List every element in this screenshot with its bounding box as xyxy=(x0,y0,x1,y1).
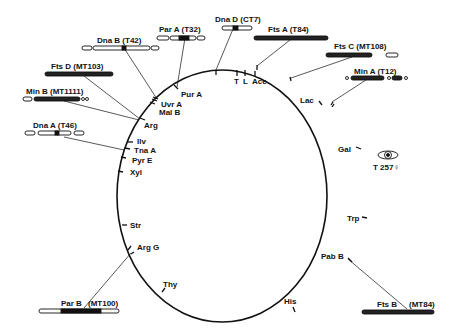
label-dnad: Dna D (CT7) xyxy=(215,15,261,24)
label-ftsb: Fts B xyxy=(377,300,397,309)
marker-str: Str xyxy=(130,221,141,230)
label-para: Par A (T32) xyxy=(159,25,201,34)
marker-gal: Gal xyxy=(338,145,351,154)
label-parb: Par B xyxy=(61,299,82,308)
marker-l: L xyxy=(243,77,248,86)
marker-argg: Arg G xyxy=(137,243,159,252)
marker-uvra: Uvr A xyxy=(161,100,182,109)
cell-icon xyxy=(378,151,398,159)
mutant-labels: Dna D (CT7) Fts A (T84) Fts C (MT108) Mi… xyxy=(26,15,435,309)
label-dnaa: Dna A (T46) xyxy=(33,121,77,130)
marker-tnaa: Tna A xyxy=(134,146,156,155)
marker-pura: Pur A xyxy=(181,90,202,99)
marker-pabb: Pab B xyxy=(321,252,344,261)
chromosome-circle xyxy=(117,70,327,322)
label-ftsd: Fts D (MT103) xyxy=(51,62,104,71)
marker-arg: Arg xyxy=(144,121,158,130)
marker-labels: T L Ace Lac Gal Trp Pab B His Thy Arg G … xyxy=(130,77,360,306)
label-parb-strain: (MT100) xyxy=(88,299,119,308)
label-ftsb-strain: (MT84) xyxy=(409,300,435,309)
marker-trp: Trp xyxy=(347,214,360,223)
marker-t: T xyxy=(234,77,239,86)
marker-malb: Mal B xyxy=(159,108,181,117)
marker-his: His xyxy=(284,297,297,306)
label-ftsa: Fts A (T84) xyxy=(268,25,309,34)
label-cell: T 257♀ xyxy=(373,163,399,172)
marker-pyre: Pyr E xyxy=(132,156,153,165)
label-ftsc: Fts C (MT108) xyxy=(334,42,387,51)
label-dnab: Dna B (T42) xyxy=(97,36,142,45)
marker-thy: Thy xyxy=(163,280,178,289)
marker-lac: Lac xyxy=(300,96,314,105)
genetic-map: T L Ace Lac Gal Trp Pab B His Thy Arg G … xyxy=(0,0,461,336)
marker-ace: Ace xyxy=(252,77,267,86)
marker-xyl: Xyl xyxy=(130,168,142,177)
label-minb: Min B (MT1111) xyxy=(26,87,84,96)
marker-ilv: Ilv xyxy=(137,137,146,146)
marker-ticks xyxy=(118,65,367,312)
label-mina: Min A (T12) xyxy=(354,67,397,76)
